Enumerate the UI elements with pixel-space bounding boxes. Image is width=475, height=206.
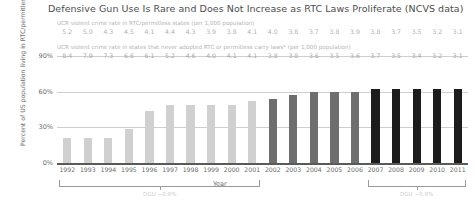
x-tick-label: 2008 <box>386 166 407 173</box>
bar <box>125 129 133 164</box>
bar <box>207 105 215 163</box>
annotation-value: 3.1 <box>447 28 468 35</box>
x-tick-label: 2001 <box>242 166 263 173</box>
x-axis-ticks: 1992199319941995199619971998199920002001… <box>57 166 468 176</box>
annotation-value: 3.6 <box>345 52 366 59</box>
x-axis-line <box>57 163 468 165</box>
bracket-stem <box>417 186 418 190</box>
annotation-row-2-values: 8.47.97.36.66.15.24.64.04.14.13.83.83.63… <box>57 52 468 61</box>
bar <box>269 99 277 163</box>
bracket-stem <box>160 186 161 190</box>
annotation-value: 3.7 <box>365 52 386 59</box>
bar <box>145 111 153 163</box>
y-tick-label: 30% <box>28 123 53 131</box>
bracket-label: DGU ~0.9% <box>120 191 200 197</box>
x-tick-label: 2009 <box>406 166 427 173</box>
y-tick-label: 90% <box>28 52 53 60</box>
bar <box>248 101 256 163</box>
x-tick-label: 2011 <box>447 166 468 173</box>
annotation-value: 3.8 <box>283 28 304 35</box>
annotation-value: 3.4 <box>406 52 427 59</box>
annotation-value: 6.6 <box>119 52 140 59</box>
x-tick-label: 1994 <box>98 166 119 173</box>
annotation-value: 3.5 <box>406 28 427 35</box>
annotation-value: 3.6 <box>304 52 325 59</box>
x-tick-label: 1997 <box>160 166 181 173</box>
x-tick-label: 2002 <box>263 166 284 173</box>
x-tick-label: 1992 <box>57 166 78 173</box>
x-tick-label: 2005 <box>324 166 345 173</box>
annotation-value: 4.0 <box>201 52 222 59</box>
annotation-row-1-values: 5.25.04.34.54.14.44.33.93.84.14.03.83.73… <box>57 28 468 37</box>
x-tick-label: 2000 <box>221 166 242 173</box>
annotation-value: 4.1 <box>242 28 263 35</box>
annotation-value: 4.1 <box>139 28 160 35</box>
annotation-value: 3.2 <box>427 52 448 59</box>
annotation-value: 4.5 <box>119 28 140 35</box>
bar <box>228 105 236 163</box>
annotation-value: 3.8 <box>324 28 345 35</box>
x-tick-label: 2003 <box>283 166 304 173</box>
annotation-row-1-caption: UCR violent crime rate in RTC/permitless… <box>57 20 254 26</box>
annotation-value: 8.4 <box>57 52 78 59</box>
x-tick-label: 1998 <box>180 166 201 173</box>
annotation-row-2-caption: UCR violent crime rate in states that ne… <box>57 44 351 50</box>
bar <box>371 89 379 163</box>
y-tick-label: 60% <box>28 88 53 96</box>
annotation-value: 4.6 <box>180 52 201 59</box>
annotation-value: 3.8 <box>283 52 304 59</box>
annotation-value: 4.0 <box>263 28 284 35</box>
annotation-value: 3.8 <box>365 28 386 35</box>
x-tick-label: 2007 <box>365 166 386 173</box>
annotation-value: 7.3 <box>98 52 119 59</box>
x-tick-label: 1995 <box>119 166 140 173</box>
bracket-label: DGU ~0.8% <box>377 191 457 197</box>
annotation-value: 5.0 <box>78 28 99 35</box>
bar <box>166 105 174 163</box>
bar <box>392 89 400 163</box>
y-tick-label: 0% <box>28 159 53 167</box>
chart-figure: Defensive Gun Use Is Rare and Does Not I… <box>0 0 475 206</box>
annotation-value: 5.2 <box>57 28 78 35</box>
bar <box>433 89 441 163</box>
x-tick-label: 1999 <box>201 166 222 173</box>
bar <box>186 105 194 163</box>
bar <box>330 92 338 163</box>
annotation-value: 5.2 <box>160 52 181 59</box>
bar <box>289 95 297 163</box>
annotation-value: 3.5 <box>386 52 407 59</box>
bar <box>454 89 462 163</box>
bar <box>63 138 71 163</box>
bar <box>413 89 421 163</box>
annotation-value: 4.1 <box>221 52 242 59</box>
annotation-value: 3.1 <box>447 52 468 59</box>
x-tick-label: 2004 <box>304 166 325 173</box>
bar <box>351 92 359 163</box>
x-tick-label: 1993 <box>78 166 99 173</box>
annotation-value: 4.3 <box>98 28 119 35</box>
x-tick-label: 2010 <box>427 166 448 173</box>
annotation-value: 4.3 <box>180 28 201 35</box>
annotation-value: 4.1 <box>242 52 263 59</box>
bar <box>84 138 92 163</box>
bar-series <box>57 44 468 163</box>
annotation-value: 7.9 <box>78 52 99 59</box>
x-tick-label: 1996 <box>139 166 160 173</box>
annotation-value: 3.7 <box>386 28 407 35</box>
annotation-value: 3.9 <box>201 28 222 35</box>
annotation-value: 3.8 <box>263 52 284 59</box>
annotation-value: 3.2 <box>427 28 448 35</box>
page-title: Defensive Gun Use Is Rare and Does Not I… <box>48 3 468 14</box>
annotation-value: 3.8 <box>221 28 242 35</box>
bar <box>104 138 112 163</box>
annotation-value: 3.9 <box>345 28 366 35</box>
x-tick-label: 2006 <box>345 166 366 173</box>
y-axis-title: Percent of US population living in RTC/p… <box>19 0 26 146</box>
annotation-value: 3.5 <box>324 52 345 59</box>
annotation-value: 4.4 <box>160 28 181 35</box>
bar <box>310 92 318 163</box>
annotation-value: 6.1 <box>139 52 160 59</box>
annotation-value: 3.7 <box>304 28 325 35</box>
